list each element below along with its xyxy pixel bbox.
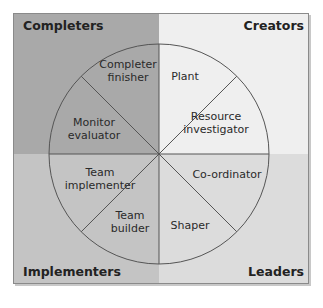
role-co-ordinator: Co-ordinator bbox=[192, 168, 261, 181]
role-monitor-evaluator: Monitorevaluator bbox=[68, 116, 120, 142]
role-wheel bbox=[14, 14, 308, 283]
role-team-builder: Teambuilder bbox=[111, 209, 149, 235]
role-plant: Plant bbox=[171, 70, 199, 83]
role-shaper: Shaper bbox=[171, 219, 210, 232]
team-roles-diagram: Completers Creators Implementers Leaders… bbox=[13, 13, 309, 284]
role-completer-finisher: Completerfinisher bbox=[99, 58, 157, 84]
role-team-implementer: Teamimplementer bbox=[65, 166, 136, 192]
role-resource-investigator: Resourceinvestigator bbox=[183, 110, 249, 136]
